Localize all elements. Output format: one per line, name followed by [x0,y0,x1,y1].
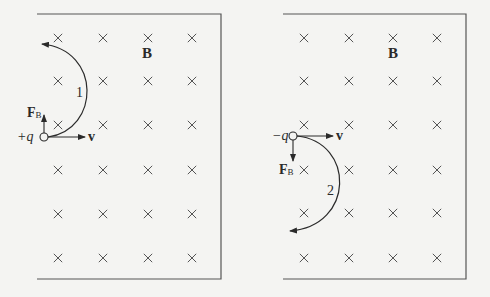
left-field-frame [37,14,221,279]
right-velocity-label: v [336,129,343,143]
left-force-label-main: F [27,105,36,120]
field-into-page-cross-icon [389,121,397,129]
right-particle-negative [289,132,297,140]
field-into-page-cross-icon [144,34,152,42]
right-force-label-main: F [279,162,288,177]
right-field-label: B [388,46,398,61]
field-into-page-cross-icon [54,34,62,42]
field-into-page-cross-icon [389,34,397,42]
field-into-page-cross-icon [433,77,441,85]
field-into-page-cross-icon [345,121,353,129]
field-into-page-cross-icon [389,254,397,262]
field-into-page-cross-icon [144,166,152,174]
field-into-page-cross-icon [345,77,353,85]
right-field-frame [283,14,466,279]
left-force-label: FB [27,106,42,120]
field-into-page-cross-icon [188,121,196,129]
field-into-page-cross-icon [144,210,152,218]
field-into-page-cross-icon [433,254,441,262]
field-into-page-cross-icon [300,254,308,262]
right-charge-label: −q [272,129,288,143]
left-charge-label: +q [17,130,33,144]
left-particle-positive [40,133,48,141]
field-into-page-cross-icon [99,121,107,129]
diagram-canvas [0,0,490,297]
field-into-page-cross-icon [188,254,196,262]
field-into-page-cross-icon [300,209,308,217]
trajectory-2-label: 2 [327,184,334,198]
field-into-page-cross-icon [188,77,196,85]
field-into-page-cross-icon [389,209,397,217]
field-into-page-cross-icon [99,254,107,262]
left-field-crosses [54,34,196,262]
field-into-page-cross-icon [300,34,308,42]
trajectory-1-label: 1 [76,86,83,100]
left-field-label: B [142,46,152,61]
field-into-page-cross-icon [54,77,62,85]
field-into-page-cross-icon [54,121,62,129]
field-into-page-cross-icon [345,166,353,174]
field-into-page-cross-icon [99,166,107,174]
field-into-page-cross-icon [433,209,441,217]
field-into-page-cross-icon [54,254,62,262]
field-into-page-cross-icon [433,121,441,129]
field-into-page-cross-icon [345,254,353,262]
field-into-page-cross-icon [144,77,152,85]
field-into-page-cross-icon [433,34,441,42]
right-force-label-sub: B [288,167,294,177]
field-into-page-cross-icon [300,166,308,174]
field-into-page-cross-icon [188,166,196,174]
field-into-page-cross-icon [54,166,62,174]
field-into-page-cross-icon [144,254,152,262]
field-into-page-cross-icon [345,209,353,217]
field-into-page-cross-icon [188,34,196,42]
field-into-page-cross-icon [188,210,196,218]
field-into-page-cross-icon [99,210,107,218]
right-field-crosses [300,34,441,262]
field-into-page-cross-icon [389,166,397,174]
left-force-label-sub: B [36,110,42,120]
field-into-page-cross-icon [389,77,397,85]
field-into-page-cross-icon [300,121,308,129]
field-into-page-cross-icon [99,34,107,42]
field-into-page-cross-icon [99,77,107,85]
field-into-page-cross-icon [144,121,152,129]
field-into-page-cross-icon [433,166,441,174]
right-force-label: FB [279,163,294,177]
field-into-page-cross-icon [300,77,308,85]
field-into-page-cross-icon [54,210,62,218]
left-velocity-label: v [88,130,95,144]
field-into-page-cross-icon [345,34,353,42]
